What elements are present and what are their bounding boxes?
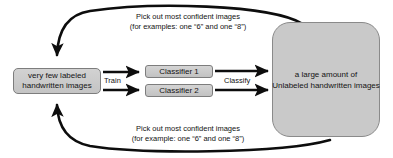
node-classifier-1[interactable]: Classifier 1 <box>145 65 213 78</box>
edge-label-classify: Classify <box>224 76 250 85</box>
node-classifier-2-label: Classifier 2 <box>159 85 199 96</box>
edge-label-feedback-top-line-2: (for examples: one “6” and one “8”) <box>93 22 283 32</box>
node-classifier-2[interactable]: Classifier 2 <box>145 84 213 97</box>
diagram-canvas: very few labeled handwritten images Clas… <box>0 0 393 158</box>
edge-label-feedback-bottom-line-2: (for example: one “6” and one “8”) <box>93 134 283 144</box>
node-unlabeled-images[interactable]: a large amount of Unlabeled handwritten … <box>272 22 380 137</box>
edge-label-train: Train <box>104 76 121 85</box>
node-unlabeled-images-line-1: a large amount of <box>295 69 357 80</box>
node-labeled-images-line-1: very few labeled <box>28 71 86 82</box>
edge-label-feedback-bottom: Pick out most confident images (for exam… <box>93 124 283 144</box>
node-labeled-images[interactable]: very few labeled handwritten images <box>13 68 101 94</box>
node-unlabeled-images-line-2: Unlabeled handwritten images <box>272 80 380 91</box>
edge-label-feedback-top-line-1: Pick out most confident images <box>93 12 283 22</box>
node-classifier-1-label: Classifier 1 <box>159 66 199 77</box>
node-labeled-images-line-2: handwritten images <box>22 81 91 92</box>
edge-label-feedback-top: Pick out most confident images (for exam… <box>93 12 283 32</box>
edge-label-feedback-bottom-line-1: Pick out most confident images <box>93 124 283 134</box>
